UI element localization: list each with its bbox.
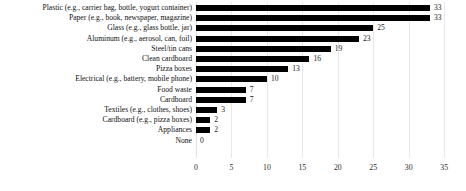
bar-fill	[196, 46, 331, 52]
bar-value-label: 33	[434, 4, 442, 12]
chart-row: Cardboard (e.g., pizza boxes)2	[0, 115, 466, 125]
bar	[196, 117, 210, 123]
x-tick-label: 20	[334, 163, 342, 172]
bar-value-label: 19	[335, 45, 343, 53]
bar	[196, 25, 373, 31]
bar-value-label: 10	[271, 75, 279, 83]
category-label: Paper (e.g., book, newspaper, magazine)	[69, 14, 192, 22]
chart-rows: Plastic (e.g., carrier bag, bottle, yogu…	[0, 0, 466, 160]
x-tick-label: 15	[298, 163, 306, 172]
chart-row: Steel/tin cans19	[0, 44, 466, 54]
bar	[196, 97, 246, 103]
category-label: Steel/tin cans	[151, 45, 192, 53]
bar-value-label: 13	[292, 65, 300, 73]
category-label: None	[176, 137, 192, 145]
bar-value-label: 33	[434, 14, 442, 22]
chart-row: None0	[0, 136, 466, 146]
bar	[196, 87, 246, 93]
chart-row: Food waste7	[0, 85, 466, 95]
bar-fill	[196, 66, 288, 72]
bar-fill	[196, 56, 309, 62]
category-label: Aluminum (e.g., aerosol, can, foil)	[87, 35, 192, 43]
chart-row: Aluminum (e.g., aerosol, can, foil)23	[0, 34, 466, 44]
chart-row: Glass (e.g., glass bottle, jar)25	[0, 23, 466, 33]
chart-row: Plastic (e.g., carrier bag, bottle, yogu…	[0, 3, 466, 13]
chart-row: Clean cardboard16	[0, 54, 466, 64]
category-label: Cardboard	[160, 96, 192, 104]
x-tick-label: 0	[194, 163, 198, 172]
category-label: Plastic (e.g., carrier bag, bottle, yogu…	[43, 4, 193, 12]
bar-fill	[196, 107, 217, 113]
bar-value-label: 3	[221, 106, 225, 114]
category-label: Textiles (e.g., clothes, shoes)	[104, 106, 192, 114]
bar-value-label: 7	[250, 86, 254, 94]
x-tick-label: 25	[369, 163, 377, 172]
chart-row: Electrical (e.g., battery, mobile phone)…	[0, 74, 466, 84]
x-axis: 05101520253035	[0, 160, 466, 178]
chart-row: Pizza boxes13	[0, 64, 466, 74]
bar-fill	[196, 87, 246, 93]
chart-row: Cardboard7	[0, 95, 466, 105]
bar-value-label: 0	[200, 137, 204, 145]
bar-value-label: 2	[214, 126, 218, 134]
bar	[196, 5, 430, 11]
chart-row: Appliances2	[0, 125, 466, 135]
bar-value-label: 2	[214, 116, 218, 124]
bar	[196, 127, 210, 133]
category-label: Pizza boxes	[156, 65, 192, 73]
x-tick-label: 35	[440, 163, 448, 172]
bar-chart: Plastic (e.g., carrier bag, bottle, yogu…	[0, 0, 466, 191]
bar-fill	[196, 5, 430, 11]
bar-value-label: 23	[363, 35, 371, 43]
category-label: Clean cardboard	[142, 55, 192, 63]
bar-fill	[196, 127, 210, 133]
category-label: Food waste	[157, 86, 192, 94]
bar-fill	[196, 117, 210, 123]
category-label: Appliances	[158, 126, 192, 134]
chart-row: Textiles (e.g., clothes, shoes)3	[0, 105, 466, 115]
bar	[196, 15, 430, 21]
bar-value-label: 25	[377, 24, 385, 32]
category-label: Glass (e.g., glass bottle, jar)	[107, 24, 192, 32]
bar-fill	[196, 76, 267, 82]
chart-row: Paper (e.g., book, newspaper, magazine)3…	[0, 13, 466, 23]
x-tick-label: 30	[405, 163, 413, 172]
bar	[196, 36, 359, 42]
x-tick-label: 10	[263, 163, 271, 172]
bar-fill	[196, 25, 373, 31]
bar	[196, 46, 331, 52]
bar-fill	[196, 15, 430, 21]
x-tick-label: 5	[229, 163, 233, 172]
bar	[196, 56, 309, 62]
bar	[196, 107, 217, 113]
bar	[196, 76, 267, 82]
bar-fill	[196, 36, 359, 42]
bar-value-label: 16	[313, 55, 321, 63]
category-label: Cardboard (e.g., pizza boxes)	[103, 116, 192, 124]
bar	[196, 66, 288, 72]
bar-fill	[196, 97, 246, 103]
category-label: Electrical (e.g., battery, mobile phone)	[75, 75, 192, 83]
bar-value-label: 7	[250, 96, 254, 104]
